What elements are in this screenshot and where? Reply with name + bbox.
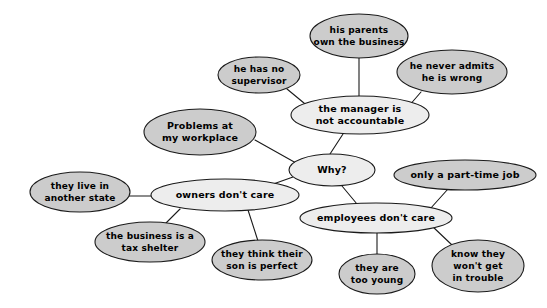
node-why[interactable]: Why? [289, 154, 375, 186]
node-label-line: not accountable [316, 115, 405, 126]
node-label-line: in trouble [452, 272, 503, 282]
connector-problems-why [255, 140, 296, 163]
node-manager[interactable]: the manager isnot accountable [291, 96, 429, 134]
mind-map-diagram: Problems atmy workplaceWhy?the manager i… [0, 0, 547, 308]
node-label-manager: the manager isnot accountable [316, 102, 405, 125]
node-label-line: he is wrong [422, 72, 483, 82]
node-label-no-trouble: know theywon't getin trouble [451, 249, 505, 282]
node-label-why: Why? [317, 164, 347, 175]
node-label-line: his parents [330, 25, 389, 35]
node-label-line: they live in [51, 181, 109, 191]
node-label-line: he never admits [410, 61, 495, 71]
node-label-line: know they [451, 249, 505, 259]
node-supervisor[interactable]: he has nosupervisor [218, 57, 300, 93]
node-label-line: another state [44, 192, 115, 202]
node-label-line: my workplace [162, 132, 238, 143]
node-too-young[interactable]: they aretoo young [339, 254, 415, 294]
node-tax-shelter[interactable]: the business is atax shelter [95, 222, 205, 262]
node-label-line: tax shelter [122, 242, 179, 252]
node-label-employees: employees don't care [317, 212, 435, 223]
connector-manager-why [330, 134, 343, 154]
node-owners[interactable]: owners don't care [151, 179, 299, 211]
node-label-line: Problems at [167, 119, 233, 130]
node-no-trouble[interactable]: know theywon't getin trouble [432, 240, 524, 292]
node-label-another-state: they live inanother state [44, 181, 115, 203]
node-label-line: Why? [317, 164, 347, 175]
node-label-line: the business is a [106, 231, 194, 241]
node-parents[interactable]: his parentsown the business [310, 14, 408, 58]
node-label-line: won't get [453, 261, 503, 271]
connector-employees-parttime [430, 189, 448, 209]
connector-owners-tax [166, 209, 180, 223]
node-label-never-admits: he never admitshe is wrong [410, 61, 495, 83]
node-label-line: owners don't care [176, 189, 275, 200]
connector-employees-trouble [432, 226, 452, 245]
node-part-time[interactable]: only a part-time job [394, 160, 536, 190]
node-label-line: they think their [221, 249, 303, 259]
node-label-line: too young [351, 274, 403, 284]
node-label-supervisor: he has nosupervisor [231, 64, 287, 86]
node-son-perfect[interactable]: they think theirson is perfect [212, 240, 312, 280]
node-label-line: they are [355, 263, 399, 273]
node-another-state[interactable]: they live inanother state [30, 172, 130, 212]
node-label-too-young: they aretoo young [351, 263, 403, 285]
connector-why-employees [342, 186, 357, 204]
node-employees[interactable]: employees don't care [300, 203, 452, 233]
node-label-son-perfect: they think theirson is perfect [221, 249, 303, 271]
node-label-line: he has no [234, 64, 285, 74]
node-label-line: only a part-time job [410, 169, 519, 180]
mind-map-canvas: Problems atmy workplaceWhy?the manager i… [0, 0, 547, 308]
node-label-owners: owners don't care [176, 189, 275, 200]
connector-owners-son [248, 210, 258, 241]
node-layer: Problems atmy workplaceWhy?the manager i… [30, 14, 536, 294]
node-label-part-time: only a part-time job [410, 169, 519, 180]
node-label-problems: Problems atmy workplace [162, 119, 238, 142]
node-label-line: son is perfect [226, 260, 298, 270]
node-problems[interactable]: Problems atmy workplace [144, 109, 256, 155]
node-label-line: supervisor [231, 75, 287, 85]
node-label-line: employees don't care [317, 212, 435, 223]
node-never-admits[interactable]: he never admitshe is wrong [397, 50, 507, 94]
node-label-line: the manager is [319, 102, 402, 113]
node-label-line: own the business [314, 36, 405, 46]
